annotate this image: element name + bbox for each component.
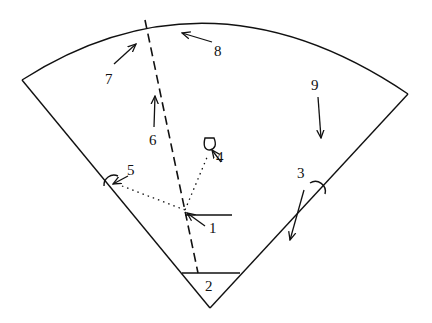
label-2: 2 [205, 278, 213, 294]
label-6: 6 [149, 132, 157, 148]
arrow-3 [290, 190, 304, 240]
label-5: 5 [127, 162, 135, 178]
arrow-5 [113, 176, 128, 184]
mark-5-arc [104, 175, 118, 186]
left-edge [22, 80, 210, 308]
arrow-8 [182, 33, 212, 42]
right-edge [210, 94, 408, 308]
dotted-to-5 [122, 186, 185, 210]
sector-outline [22, 23, 408, 308]
dotted-lines [122, 155, 208, 210]
label-9: 9 [311, 77, 319, 93]
dotted-to-4 [185, 155, 208, 210]
label-8: 8 [214, 43, 222, 59]
arrow-7 [114, 44, 136, 64]
sector-diagram: 1 2 3 4 5 6 7 8 9 [0, 0, 432, 323]
label-7: 7 [105, 71, 113, 87]
mark-4-shape [204, 138, 215, 150]
label-1: 1 [209, 220, 217, 236]
label-4: 4 [216, 149, 224, 165]
arrow-9 [318, 97, 321, 138]
arrow-6 [154, 96, 155, 127]
label-3: 3 [297, 165, 305, 181]
